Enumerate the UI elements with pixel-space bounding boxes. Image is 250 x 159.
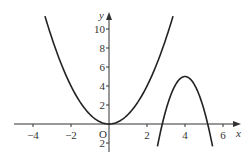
x-tick-label: 6 <box>220 129 226 141</box>
y-tick-label: 10 <box>94 23 106 35</box>
ticks: −4−22462246810 <box>27 23 226 149</box>
y-tick-label: 6 <box>100 61 106 73</box>
y-tick-label: 4 <box>100 80 106 92</box>
axes: x y O <box>14 9 241 152</box>
curves <box>45 16 213 146</box>
y-tick-label: 2 <box>100 99 106 111</box>
y-axis-arrow-icon <box>106 12 112 20</box>
y-axis-label: y <box>98 9 104 21</box>
y-tick-label: 2 <box>100 137 106 149</box>
x-tick-label: −4 <box>27 129 39 141</box>
x-axis-label: x <box>235 127 241 139</box>
x-tick-label: 2 <box>144 129 150 141</box>
x-tick-label: 4 <box>182 129 188 141</box>
y-tick-label: 8 <box>100 42 106 54</box>
chart: x y O −4−22462246810 <box>0 0 250 159</box>
x-tick-label: −2 <box>65 129 77 141</box>
